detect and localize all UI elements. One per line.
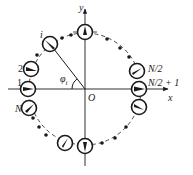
- element-label-N-half-plus-one: N/2 + 1: [147, 77, 179, 88]
- origin-label: O: [88, 92, 95, 103]
- element-label-1: 1: [17, 77, 22, 88]
- element-top: [73, 25, 97, 40]
- element-lower-right: [132, 100, 147, 115]
- angle-label-phi: φi: [60, 73, 68, 87]
- element-N-half-plus-one: [132, 82, 147, 97]
- element-i: [43, 37, 58, 52]
- y-axis-label: y: [78, 2, 84, 13]
- x-axis-label: x: [167, 92, 173, 103]
- element-2: [24, 62, 39, 77]
- element-N: [22, 101, 37, 116]
- element-label-N-half: N/2: [147, 63, 162, 74]
- circular-array-diagram: y x O i 2 1 N N/2 N/2 + 1 φi: [0, 0, 193, 175]
- element-label-i: i: [40, 29, 43, 40]
- element-bottom-left: [58, 136, 73, 151]
- element-N-half: [130, 64, 145, 79]
- radius-line-i: [50, 44, 85, 89]
- element-bottom: [78, 139, 93, 154]
- element-label-N: N: [14, 103, 23, 114]
- angle-arc-phi: [72, 79, 77, 89]
- element-label-2: 2: [18, 63, 23, 74]
- element-1: [21, 82, 36, 97]
